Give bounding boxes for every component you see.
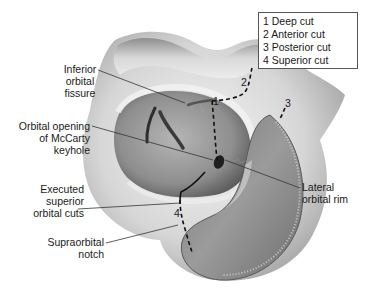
cut-legend: 1 Deep cut 2 Anterior cut 3 Posterior cu… [258, 12, 358, 69]
legend-item-4: 4 Superior cut [263, 54, 353, 67]
label-supraorbital-notch: Supraorbital notch [30, 236, 104, 260]
cut-marker-2: 2 [241, 76, 247, 88]
label-orbital-opening: Orbital opening of McCarty keyhole [2, 120, 90, 156]
label-inferior-orbital-fissure: Inferior orbital fissure [55, 63, 105, 99]
legend-item-1: 1 Deep cut [263, 15, 353, 28]
label-lateral-orbital-rim: Lateral orbital rim [302, 181, 366, 205]
cut-marker-4: 4 [174, 207, 180, 219]
label-executed-superior-cuts: Executed superior orbital cuts [10, 183, 84, 219]
cut-marker-3: 3 [285, 97, 291, 109]
legend-item-3: 3 Posterior cut [263, 41, 353, 54]
legend-item-2: 2 Anterior cut [263, 28, 353, 41]
cut-marker-1: 1 [213, 95, 219, 107]
